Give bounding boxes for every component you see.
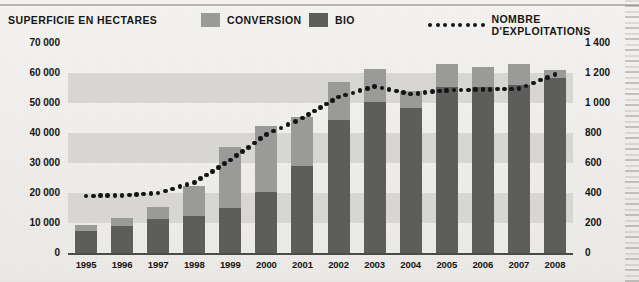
line-dot [394,89,399,94]
bar-segment-conversion [111,218,133,226]
bar-2007 [508,64,530,253]
legend-label-bio: BIO [335,14,355,26]
line-dot [444,88,449,93]
y-tick-left: 40 000 [0,127,60,138]
line-dot [105,193,110,198]
line-dot [509,87,514,92]
bar-segment-conversion [436,64,458,87]
x-tick-2000: 2000 [246,259,286,270]
bar-segment-conversion [472,67,494,87]
y-tick-right: 1 400 [585,37,633,48]
bar-1995 [75,225,97,254]
line-dot [481,87,486,92]
bar-2003 [364,69,386,254]
chart-figure: SUPERFICIE EN HECTARES CONVERSION BIO NO… [0,0,639,282]
bar-segment-conversion [183,186,205,216]
bar-segment-bio [147,219,169,254]
bar-1998 [183,186,205,254]
bar-1997 [147,207,169,254]
x-axis-baseline [68,253,573,255]
line-dot [545,75,550,80]
line-dot [170,187,175,192]
bar-2001 [291,117,313,254]
bar-2006 [472,67,494,253]
line-dot [437,89,442,94]
line-dot [553,72,558,77]
bar-2000 [255,126,277,254]
x-tick-2008: 2008 [535,259,575,270]
line-dot [365,86,370,91]
bar-segment-bio [508,85,530,253]
legend-label-conversion: CONVERSION [227,14,302,26]
line-dot [264,132,269,137]
bar-segment-bio [400,108,422,254]
header-divider [0,4,639,6]
bar-segment-bio [111,226,133,253]
bar-segment-bio [472,87,494,254]
legend-series-title: SUPERFICIE EN HECTARES [8,14,157,26]
line-dot [372,84,377,89]
legend-item-exploitations: NOMBRE D'EXPLOITATIONS [428,13,639,37]
legend-label-exploitations: NOMBRE D'EXPLOITATIONS [492,13,639,37]
x-tick-2007: 2007 [499,259,539,270]
bar-segment-bio [436,87,458,254]
line-dot [141,192,146,197]
legend-item-bio: BIO [309,13,355,27]
x-tick-1997: 1997 [138,259,178,270]
line-dot [178,184,183,189]
bar-series-group [68,43,573,253]
legend-dotted-line-icon [428,23,485,27]
bar-segment-bio [328,120,350,254]
line-dot [246,145,251,150]
line-dot [149,191,154,196]
line-dot [120,193,125,198]
x-tick-1998: 1998 [174,259,214,270]
line-dot [216,165,221,170]
bar-segment-bio [544,78,566,254]
y-tick-left: 60 000 [0,67,60,78]
x-tick-1999: 1999 [210,259,250,270]
line-dot [163,189,168,194]
line-dot [343,93,348,98]
line-dot [336,95,341,100]
bar-segment-bio [219,208,241,253]
x-tick-1995: 1995 [66,259,106,270]
line-dot [502,87,507,92]
bar-segment-bio [75,231,97,254]
line-dot [401,90,406,95]
line-dot [387,87,392,92]
line-dot [192,180,197,185]
y-tick-right: 200 [585,217,633,228]
line-dot [198,176,203,181]
x-tick-2006: 2006 [463,259,503,270]
bar-1996 [111,218,133,253]
line-dot [300,116,305,121]
line-dot [318,105,323,110]
bar-segment-bio [255,192,277,254]
line-dot [312,109,317,114]
bar-segment-bio [183,216,205,254]
line-dot [488,87,493,92]
line-dot [98,193,103,198]
line-dot [473,87,478,92]
line-dot [134,192,139,197]
y-tick-right: 1 000 [585,97,633,108]
line-dot [466,88,471,93]
y-tick-left: 10 000 [0,217,60,228]
legend-item-conversion: CONVERSION [201,13,302,27]
x-tick-2002: 2002 [319,259,359,270]
line-dot [91,194,96,199]
plot-area [68,43,573,253]
line-dot [306,112,311,117]
line-dot [258,136,263,141]
y-tick-left: 0 [0,247,60,258]
line-dot [210,169,215,174]
line-dot [240,149,245,154]
line-dot [252,141,257,146]
x-tick-2003: 2003 [355,259,395,270]
y-tick-right: 0 [585,247,633,258]
y-tick-left: 70 000 [0,37,60,48]
bar-2008 [544,70,566,253]
legend-swatch-conversion [201,13,220,27]
line-dot [430,89,435,94]
